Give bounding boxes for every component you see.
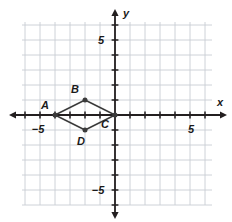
- y-axis-label: y: [122, 7, 130, 19]
- y-tick-label-pos5: 5: [98, 34, 105, 46]
- vertex-point-d: [83, 128, 88, 133]
- y-tick-label-neg5: −5: [92, 184, 105, 196]
- vertex-point-a: [53, 113, 58, 118]
- x-axis-label: x: [216, 96, 224, 108]
- vertex-label-a: A: [40, 99, 49, 111]
- plot-background: [0, 0, 232, 222]
- vertex-label-c: C: [101, 118, 110, 130]
- vertex-point-b: [83, 98, 88, 103]
- vertex-label-d: D: [77, 135, 85, 147]
- x-tick-label-pos5: 5: [188, 123, 195, 135]
- x-tick-label-neg5: −5: [32, 123, 45, 135]
- coordinate-plane: ABCD−555−5xy: [0, 0, 232, 222]
- vertex-label-b: B: [71, 83, 79, 95]
- vertex-point-c: [113, 113, 118, 118]
- figure-root: 188 ABCD−555−5xy: [0, 0, 232, 222]
